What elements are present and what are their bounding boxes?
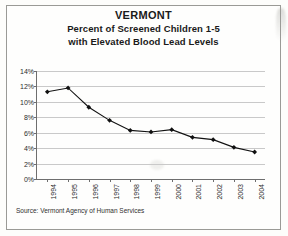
data-point-marker xyxy=(149,130,154,135)
chart-subtitle-line2: with Elevated Blood Lead Levels xyxy=(6,35,281,48)
x-axis-tick-label: 1994 xyxy=(50,184,57,200)
chart-title: VERMONT xyxy=(6,9,281,22)
chart-subtitle-line1: Percent of Screened Children 1-5 xyxy=(6,22,281,35)
x-axis-tick xyxy=(110,179,111,182)
x-axis-tick-label: 1997 xyxy=(113,184,120,200)
data-point-marker xyxy=(45,89,50,94)
x-axis-tick-label: 2004 xyxy=(258,184,265,200)
data-point-marker xyxy=(252,150,257,155)
data-point-marker xyxy=(232,145,237,150)
data-point-marker xyxy=(169,127,174,132)
y-axis-tick-label: 8% xyxy=(24,114,34,121)
y-axis-tick-label: 14% xyxy=(20,68,34,75)
scanned-page: VERMONT Percent of Screened Children 1-5… xyxy=(0,0,288,236)
data-series xyxy=(37,71,265,179)
chart-area: 14%12%10%8%6%4%2%0% 19941995199619971998… xyxy=(8,62,270,188)
x-axis-tick-label: 1996 xyxy=(92,184,99,200)
y-axis-tick-label: 6% xyxy=(24,129,34,136)
x-axis-tick-label: 2002 xyxy=(216,184,223,200)
y-axis-tick-label: 10% xyxy=(20,98,34,105)
x-axis-tick xyxy=(130,179,131,182)
data-point-marker xyxy=(190,135,195,140)
y-axis-tick-label: 2% xyxy=(24,160,34,167)
x-axis-tick-label: 1995 xyxy=(71,184,78,200)
x-axis-tick xyxy=(68,179,69,182)
plot-region: 14%12%10%8%6%4%2%0% 19941995199619971998… xyxy=(36,71,265,180)
x-axis-tick xyxy=(255,179,256,182)
x-axis-tick xyxy=(151,179,152,182)
source-note: Source: Vermont Agency of Human Services xyxy=(16,207,144,214)
y-axis-tick-label: 0% xyxy=(24,176,34,183)
x-axis-tick xyxy=(234,179,235,182)
data-point-marker xyxy=(128,128,133,133)
x-axis-tick-label: 1998 xyxy=(133,184,140,200)
x-axis-tick xyxy=(172,179,173,182)
y-axis-tick-label: 4% xyxy=(24,145,34,152)
x-axis-tick xyxy=(192,179,193,182)
x-axis-tick xyxy=(89,179,90,182)
x-axis-tick-label: 2003 xyxy=(237,184,244,200)
x-axis-tick-label: 1999 xyxy=(154,184,161,200)
x-axis-tick-label: 2000 xyxy=(175,184,182,200)
x-axis-tick xyxy=(213,179,214,182)
data-point-marker xyxy=(211,137,216,142)
chart-title-block: VERMONT Percent of Screened Children 1-5… xyxy=(6,9,281,48)
x-axis-tick xyxy=(47,179,48,182)
series-line xyxy=(47,88,254,152)
y-axis-tick-label: 12% xyxy=(20,83,34,90)
y-axis-tick xyxy=(34,179,37,180)
x-axis-tick-label: 2001 xyxy=(195,184,202,200)
